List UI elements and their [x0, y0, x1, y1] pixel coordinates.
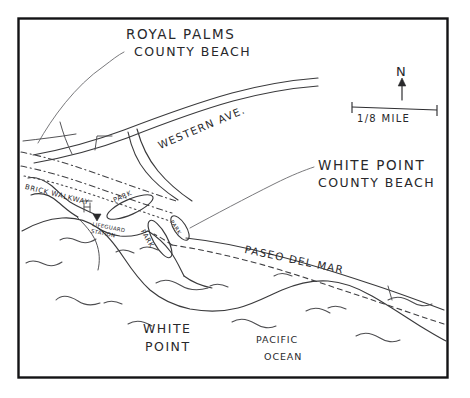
- side-road-upper: [23, 134, 76, 141]
- leader-line-white-point: [190, 167, 314, 228]
- western-ave-road-edge: [34, 86, 318, 163]
- coastline-main: [22, 218, 446, 341]
- compass-rose: [398, 78, 406, 100]
- label-royal-palms: ROYAL PALMS: [126, 27, 235, 43]
- label-white-point-county-beach: WHITE POINT: [318, 158, 425, 174]
- coastline-headland-tip: [184, 276, 212, 288]
- lifeguard-station-marker[interactable]: [93, 214, 101, 221]
- ocean-waves: [26, 238, 432, 342]
- label-white-point: WHITE: [143, 322, 191, 337]
- leader-line-royal-palms: [38, 52, 124, 143]
- label-ocean: OCEAN: [264, 351, 302, 362]
- label-north: N: [396, 64, 406, 79]
- hand-drawn-map: ROYAL PALMS COUNTY BEACH WHITE POINT COU…: [0, 0, 470, 398]
- label-scale-bar: 1/8 MILE: [357, 113, 410, 125]
- label-royal-palms-county-beach: COUNTY BEACH: [134, 45, 251, 60]
- coastline-headland-edge: [148, 231, 184, 276]
- label-white-point-county-beach-line2: COUNTY BEACH: [318, 176, 435, 191]
- label-pacific: PACIFIC: [256, 334, 298, 345]
- label-white-point-line2: POINT: [145, 340, 191, 355]
